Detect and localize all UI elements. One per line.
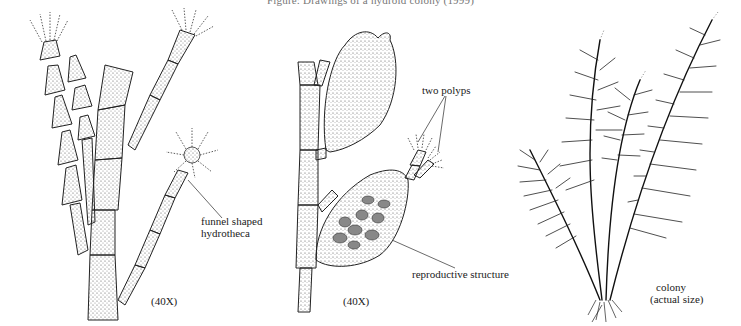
label-hydrotheca: hydrotheca	[201, 227, 250, 239]
magnification-label-1: (40X)	[151, 295, 177, 307]
hydroid-stem-illustration	[0, 0, 260, 326]
label-reproductive-structure: reproductive structure	[412, 268, 509, 280]
label-funnel-shaped: funnel shaped	[201, 215, 262, 227]
label-actual-size: (actual size)	[650, 293, 703, 305]
label-colony: colony	[656, 281, 686, 293]
magnification-label-2: (40X)	[343, 295, 369, 307]
label-two-polyps: two polyps	[422, 84, 471, 96]
